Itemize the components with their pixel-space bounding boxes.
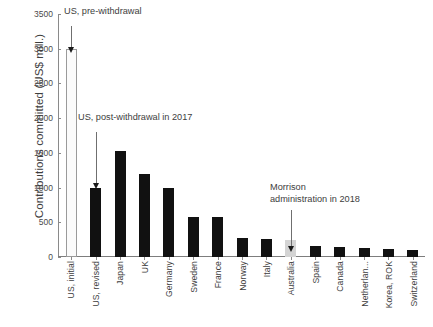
bar-slot <box>303 14 327 257</box>
bar-slot <box>108 14 132 257</box>
x-tick-mark <box>388 257 389 260</box>
bar-slot <box>230 14 254 257</box>
bar-slot <box>352 14 376 257</box>
x-label-slot: US, revised <box>83 261 107 327</box>
x-tick-label: Netherlan... <box>360 261 370 307</box>
bar-slot <box>205 14 229 257</box>
annotation-arrow <box>71 26 72 48</box>
x-tick-mark <box>120 257 121 260</box>
bar-spain <box>310 246 321 257</box>
x-tick-mark <box>242 257 243 260</box>
x-tick-mark <box>315 257 316 260</box>
y-tick-mark <box>58 257 61 258</box>
annotation-text: Morrison administration in 2018 <box>270 182 360 205</box>
bar-chart: Contributions committed (US$ mill.) 3500… <box>0 0 433 327</box>
x-label-slot: Canada <box>328 261 352 327</box>
x-tick-label: US, initial <box>66 261 76 298</box>
bar-slot <box>401 14 425 257</box>
y-tick-label: 0 <box>48 252 58 262</box>
bar-slot <box>132 14 156 257</box>
x-tick-mark <box>169 257 170 260</box>
y-tick-label: 2500 <box>34 78 58 88</box>
x-tick-label: Australia <box>286 261 296 295</box>
x-tick-label: US, revised <box>91 261 101 307</box>
bar-series <box>59 14 425 257</box>
x-label-slot: Sweden <box>181 261 205 327</box>
x-tick-label: Korea, ROK <box>384 261 394 308</box>
bar-slot <box>376 14 400 257</box>
annotation-text: US, post-withdrawal in 2017 <box>78 112 192 124</box>
bar-norway <box>237 238 248 257</box>
bar-sweden <box>188 217 199 257</box>
bar-slot <box>181 14 205 257</box>
bar-netherlan <box>359 248 370 257</box>
x-tick-mark <box>266 257 267 260</box>
annotation-text: US, pre-withdrawal <box>64 6 142 18</box>
bar-italy <box>261 239 272 257</box>
x-tick-label: Spain <box>311 261 321 283</box>
x-label-slot: Australia <box>279 261 303 327</box>
bar-slot <box>254 14 278 257</box>
x-label-slot: Spain <box>304 261 328 327</box>
y-tick-label: 3000 <box>34 44 58 54</box>
bar-slot <box>157 14 181 257</box>
x-label-slot: Netherlan... <box>353 261 377 327</box>
bar-slot <box>327 14 351 257</box>
y-tick-label: 1000 <box>34 183 58 193</box>
x-tick-label: Sweden <box>189 261 199 293</box>
x-tick-label: Germany <box>164 261 174 297</box>
x-label-slot: Italy <box>255 261 279 327</box>
y-tick-label: 2000 <box>34 113 58 123</box>
x-tick-mark <box>193 257 194 260</box>
bar-france <box>212 217 223 257</box>
bar-japan <box>115 151 126 257</box>
x-label-slot: Korea, ROK <box>377 261 401 327</box>
x-tick-mark <box>291 257 292 260</box>
x-tick-label: Norway <box>238 261 248 291</box>
x-tick-label: UK <box>140 261 150 273</box>
x-tick-mark <box>144 257 145 260</box>
bar-korea-rok <box>383 249 394 257</box>
y-tick-label: 3500 <box>34 9 58 19</box>
x-tick-label: Italy <box>262 261 272 277</box>
x-label-slot: US, initial <box>59 261 83 327</box>
x-tick-mark <box>340 257 341 260</box>
annotation-arrow <box>291 210 292 247</box>
x-tick-label: Canada <box>335 261 345 292</box>
bar-germany <box>163 188 174 257</box>
x-label-slot: UK <box>132 261 156 327</box>
annotation-arrow <box>96 132 97 184</box>
y-tick-label: 500 <box>39 217 58 227</box>
x-label-slot: Norway <box>230 261 254 327</box>
x-label-slot: Germany <box>157 261 181 327</box>
x-tick-mark <box>364 257 365 260</box>
bar-us-revised <box>90 188 101 257</box>
bar-us-initial <box>66 49 77 257</box>
x-label-slot: France <box>206 261 230 327</box>
x-tick-label: Japan <box>115 261 125 285</box>
x-tick-mark <box>218 257 219 260</box>
x-axis-labels: US, initialUS, revisedJapanUKGermanySwed… <box>59 261 426 327</box>
y-tick-label: 1500 <box>34 148 58 158</box>
x-tick-label: France <box>213 261 223 288</box>
x-label-slot: Japan <box>108 261 132 327</box>
bar-uk <box>139 174 150 257</box>
bar-canada <box>334 247 345 257</box>
y-axis-title: Contributions committed (US$ mill.) <box>33 1 45 251</box>
plot-area: 3500300025002000150010005000 US, pre-wit… <box>58 14 425 257</box>
bar-switzerland <box>407 250 418 257</box>
x-tick-mark <box>71 257 72 260</box>
x-tick-label: Switzerland <box>409 261 419 307</box>
x-label-slot: Switzerland <box>402 261 426 327</box>
